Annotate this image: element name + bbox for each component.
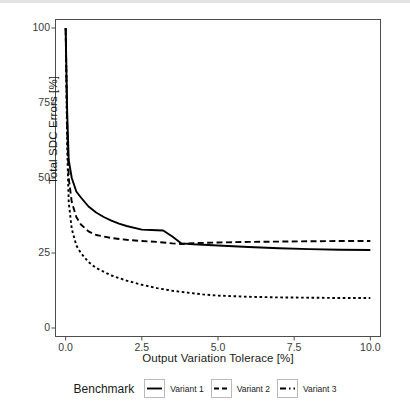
legend-key-variant-3	[277, 379, 298, 398]
legend-title: Benchmark	[74, 382, 135, 396]
legend-key-variant-1	[144, 379, 165, 398]
legend-key-variant-2	[211, 379, 232, 398]
x-axis-title: Output Variation Tolerace [%]	[55, 352, 381, 364]
legend-entry-variant-1[interactable]: Variant 1	[144, 379, 203, 398]
y-tick-label: 0	[20, 321, 50, 333]
legend-label-variant-3: Variant 3	[303, 384, 336, 394]
plot-panel-border	[56, 20, 381, 337]
y-axis-title: Total SDC Errors [%]	[47, 30, 59, 230]
y-tick-label: 100	[20, 21, 50, 33]
x-axis-tick-marks	[66, 337, 371, 341]
legend-label-variant-1: Variant 1	[170, 384, 203, 394]
chart-figure: 0255075100 0.02.55.07.510.0 Output Varia…	[0, 0, 410, 410]
legend-line-solid-icon	[146, 381, 163, 396]
legend-entry-variant-3[interactable]: Variant 3	[277, 379, 336, 398]
y-tick-label: 50	[20, 171, 50, 183]
legend-line-dashed-icon	[213, 381, 230, 396]
legend-label-variant-2: Variant 2	[237, 384, 270, 394]
chart-legend: Benchmark Variant 1 Variant 2	[0, 379, 410, 398]
y-tick-label: 25	[20, 246, 50, 258]
legend-line-dotted-icon	[279, 381, 296, 396]
y-axis-tick-labels: 0255075100	[16, 0, 50, 340]
y-tick-label: 75	[20, 96, 50, 108]
legend-entry-variant-2[interactable]: Variant 2	[211, 379, 270, 398]
